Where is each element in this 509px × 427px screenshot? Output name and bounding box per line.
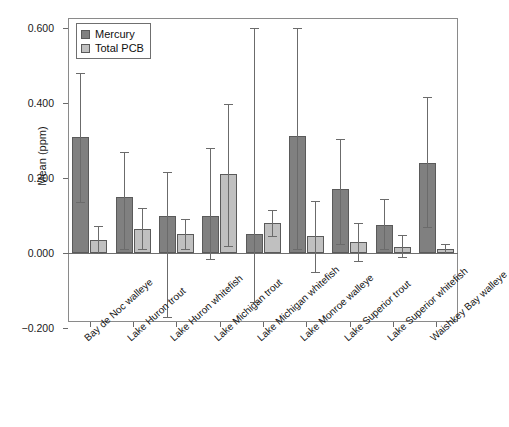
- legend-item-total-pcb: Total PCB: [81, 41, 144, 55]
- x-tick-label: Lake Michigan whitefish: [255, 264, 341, 343]
- legend-label-total-pcb: Total PCB: [95, 43, 144, 54]
- x-tick-label: Lake Monroe walleye: [298, 272, 376, 343]
- legend-item-mercury: Mercury: [81, 27, 144, 41]
- x-tick-label: Lake Huron whitefish: [168, 273, 245, 344]
- legend-swatch-total-pcb-icon: [81, 44, 90, 53]
- x-tick-label: Waishkey Bay walleye: [428, 269, 509, 344]
- legend-swatch-mercury-icon: [81, 30, 90, 39]
- legend-label-mercury: Mercury: [95, 29, 135, 40]
- chart-legend: Mercury Total PCB: [76, 23, 151, 59]
- x-tick-label: Lake Superior whitefish: [385, 265, 470, 343]
